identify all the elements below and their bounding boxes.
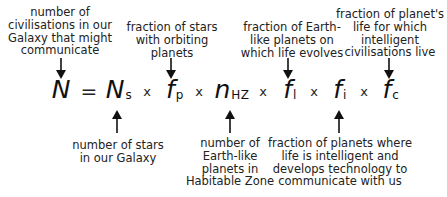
label-line: fraction of Earth-	[241, 21, 343, 34]
symbol-ns: Ns	[106, 76, 132, 109]
label-fp-fraction-stars: fraction of stars with orbiting planets	[127, 21, 218, 59]
label-line: in our Galaxy	[72, 152, 164, 165]
label-line: number of stars	[72, 139, 164, 152]
symbol-main: N	[52, 75, 71, 104]
label-line: communicate with us	[268, 175, 412, 188]
symbol-subscript: l	[293, 88, 297, 102]
symbol-fc: fc	[383, 76, 400, 109]
symbol-main: f	[166, 75, 175, 104]
label-line: Habitable Zone	[186, 175, 274, 188]
symbol-subscript: s	[125, 88, 132, 102]
times-sign: x	[360, 84, 368, 99]
label-fc-civilisations-live: fraction of planet's life for which inte…	[336, 8, 444, 59]
label-fi-intelligent: fraction of planets where life is intell…	[268, 137, 412, 188]
symbol-main: f	[383, 75, 392, 104]
label-ns-stars: number of stars in our Galaxy	[72, 139, 164, 165]
arrow-up-icon	[333, 110, 345, 133]
label-line: civilisations in our	[8, 19, 112, 32]
arrow-up-icon	[111, 110, 123, 133]
symbol-main: f	[333, 75, 342, 104]
symbol-main: n	[214, 75, 230, 104]
symbol-subscript: c	[392, 88, 399, 102]
symbol-fi: fi	[333, 76, 347, 109]
label-line: number of	[186, 137, 274, 150]
label-line: fraction of planet's	[336, 8, 444, 21]
symbol-subscript: HZ	[231, 88, 249, 102]
label-line: fraction of stars	[127, 21, 218, 34]
equals-sign: =	[81, 79, 98, 103]
symbol-fl: fl	[283, 76, 297, 109]
times-sign: x	[259, 84, 267, 99]
label-line: like planets on	[241, 34, 343, 47]
symbol-fp: fp	[166, 76, 184, 109]
label-line: communicate	[8, 44, 112, 57]
label-fl-life-evolves: fraction of Earth- like planets on which…	[241, 21, 343, 59]
label-line: with orbiting	[127, 34, 218, 47]
symbol-main: N	[106, 75, 125, 104]
symbol-main: f	[283, 75, 292, 104]
label-line: Earth-like	[186, 150, 274, 163]
symbol-subscript: p	[176, 88, 184, 102]
times-sign: x	[195, 84, 203, 99]
label-line: life is intelligent and	[268, 150, 412, 163]
label-nhz-habitable-zone: number of Earth-like planets in Habitabl…	[186, 137, 274, 188]
times-sign: x	[310, 84, 318, 99]
symbol-subscript: i	[343, 88, 347, 102]
label-line: fraction of planets where	[268, 137, 412, 150]
times-sign: x	[143, 84, 151, 99]
symbol-n: N	[52, 76, 71, 104]
label-line: number of	[8, 6, 112, 19]
label-line: life for which	[336, 21, 444, 34]
symbol-nhz: nHZ	[214, 76, 249, 109]
arrow-up-icon	[224, 110, 236, 133]
label-n-civilisations: number of civilisations in our Galaxy th…	[8, 6, 112, 57]
